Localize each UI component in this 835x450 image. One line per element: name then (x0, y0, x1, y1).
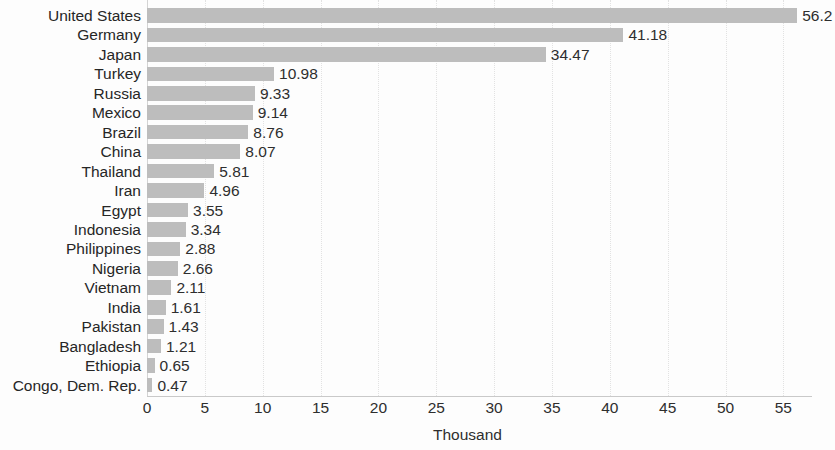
bar-row: 34.47 (147, 45, 812, 64)
category-label: Russia (0, 84, 141, 103)
bar-row: 1.43 (147, 317, 812, 336)
bar-row: 9.14 (147, 103, 812, 122)
x-tick-10: 10 (254, 399, 271, 417)
bar-row: 41.18 (147, 25, 812, 44)
x-axis-line (147, 396, 812, 397)
bar-value-label: 2.66 (178, 259, 213, 278)
x-tick-25: 25 (428, 399, 445, 417)
bar-row: 8.07 (147, 142, 812, 161)
bar-value-label: 0.47 (152, 376, 187, 395)
bar-row: 1.21 (147, 337, 812, 356)
bar-row: 2.66 (147, 259, 812, 278)
bar (147, 8, 797, 23)
bar-row: 3.55 (147, 201, 812, 220)
category-label: United States (0, 6, 141, 25)
x-tick-45: 45 (659, 399, 676, 417)
bar-row: 9.33 (147, 84, 812, 103)
bar-row: 4.96 (147, 181, 812, 200)
category-label: Ethiopia (0, 356, 141, 375)
bar-value-label: 2.11 (171, 278, 205, 297)
bar (147, 358, 155, 373)
bar-value-label: 9.33 (255, 84, 290, 103)
bar (147, 222, 186, 237)
bar-value-label: 2.88 (180, 239, 215, 258)
category-label: Mexico (0, 103, 141, 122)
bar-row: 56.2 (147, 6, 812, 25)
bar (147, 261, 178, 276)
bar-row: 10.98 (147, 64, 812, 83)
bar-value-label: 56.2 (797, 6, 832, 25)
bar (147, 86, 255, 101)
category-label: Brazil (0, 123, 141, 142)
x-tick-35: 35 (543, 399, 560, 417)
bar-value-label: 0.65 (155, 356, 190, 375)
bar-row: 1.61 (147, 298, 812, 317)
category-label: Vietnam (0, 278, 141, 297)
bar-value-label: 8.07 (240, 142, 275, 161)
bar-row: 0.47 (147, 376, 812, 395)
x-tick-40: 40 (601, 399, 618, 417)
bar (147, 164, 214, 179)
bar-value-label: 8.76 (248, 123, 283, 142)
bar-row: 8.76 (147, 123, 812, 142)
bar (147, 105, 253, 120)
category-label: Pakistan (0, 317, 141, 336)
category-label: Germany (0, 25, 141, 44)
bar-value-label: 5.81 (214, 162, 249, 181)
bar (147, 144, 240, 159)
x-axis-title-text: Thousand (433, 426, 502, 444)
bar-value-label: 34.47 (546, 45, 590, 64)
category-label: Bangladesh (0, 337, 141, 356)
x-tick-20: 20 (370, 399, 387, 417)
bar-chart: 56.241.1834.4710.989.339.148.768.075.814… (0, 0, 835, 450)
x-tick-55: 55 (775, 399, 792, 417)
category-label: Turkey (0, 64, 141, 83)
category-label: Thailand (0, 162, 141, 181)
bar (147, 183, 204, 198)
bar-value-label: 3.55 (188, 201, 223, 220)
category-label: Japan (0, 45, 141, 64)
bar (147, 28, 623, 43)
bar-row: 2.11 (147, 278, 812, 297)
bar (147, 280, 171, 295)
category-label: Nigeria (0, 259, 141, 278)
category-label: Indonesia (0, 220, 141, 239)
bar-value-label: 41.18 (623, 25, 667, 44)
bar (147, 47, 546, 62)
bar (147, 67, 274, 82)
x-tick-5: 5 (201, 399, 210, 417)
bar (147, 242, 180, 257)
x-tick-30: 30 (485, 399, 502, 417)
bar-row: 5.81 (147, 162, 812, 181)
bar-value-label: 4.96 (204, 181, 239, 200)
bar-row: 2.88 (147, 239, 812, 258)
x-tick-0: 0 (143, 399, 152, 417)
category-label: Philippines (0, 239, 141, 258)
category-label: Egypt (0, 201, 141, 220)
bar-value-label: 10.98 (274, 64, 318, 83)
category-label: China (0, 142, 141, 161)
bar-value-label: 3.34 (186, 220, 221, 239)
bar-value-label: 1.61 (166, 298, 201, 317)
bar-row: 3.34 (147, 220, 812, 239)
x-tick-15: 15 (312, 399, 329, 417)
bar-value-label: 1.21 (161, 337, 196, 356)
x-tick-50: 50 (717, 399, 734, 417)
plot-area: 56.241.1834.4710.989.339.148.768.075.814… (147, 0, 812, 396)
category-label: India (0, 298, 141, 317)
category-label: Iran (0, 181, 141, 200)
bar (147, 319, 164, 334)
bar (147, 339, 161, 354)
category-label: Congo, Dem. Rep. (0, 376, 141, 395)
bar-row: 0.65 (147, 356, 812, 375)
bar-value-label: 1.43 (164, 317, 199, 336)
bar (147, 203, 188, 218)
bar (147, 125, 248, 140)
bar (147, 300, 166, 315)
x-axis-title: Thousand (0, 426, 835, 444)
bar-value-label: 9.14 (253, 103, 288, 122)
